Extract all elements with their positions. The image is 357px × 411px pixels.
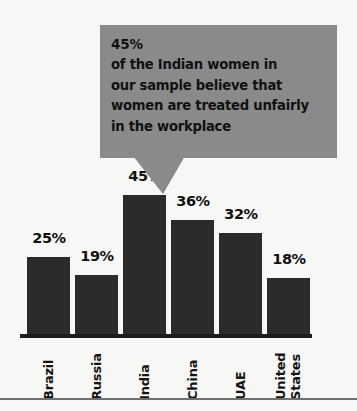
category-label-china: China	[171, 342, 214, 400]
bar-value-brazil: 25%	[20, 230, 78, 246]
category-label-line: India	[138, 342, 152, 400]
bar-value-united-states: 18%	[260, 251, 318, 267]
bar-india	[123, 195, 166, 334]
bottom-divider	[0, 398, 357, 400]
x-axis-baseline	[20, 334, 312, 338]
category-label-line: China	[186, 342, 200, 400]
bar-brazil	[27, 257, 70, 334]
category-label-india: India	[123, 342, 166, 400]
callout-annotation: 45% of the Indian women in our sample be…	[100, 25, 337, 158]
callout-line-3: women are treated unfairly	[111, 96, 327, 117]
callout-stat: 45%	[111, 36, 327, 53]
category-label-russia: Russia	[75, 342, 118, 400]
category-label-line: United	[274, 342, 288, 400]
category-label-line: Brazil	[42, 342, 56, 400]
category-label-united-states: United States	[267, 342, 310, 400]
callout-line-1: of the Indian women in	[111, 55, 327, 76]
callout-line-4: in the workplace	[111, 117, 327, 138]
callout-body: of the Indian women in our sample believ…	[111, 55, 327, 137]
callout-tail	[133, 156, 185, 194]
bar-chart-figure: 25% 19% 45% 36% 32% 18%	[0, 0, 357, 411]
bar-china	[171, 220, 214, 334]
bar-uae	[219, 233, 262, 334]
callout-line-2: our sample believe that	[111, 76, 327, 97]
x-axis-category-labels: Brazil Russia India China UAE United	[27, 342, 310, 402]
category-label-brazil: Brazil	[27, 342, 70, 400]
category-label-line: UAE	[234, 342, 248, 400]
bar-value-uae: 32%	[212, 206, 270, 222]
bar-russia	[75, 275, 118, 334]
bar-slot-brazil: 25%	[27, 0, 70, 334]
category-label-line: Russia	[90, 342, 104, 400]
category-label-uae: UAE	[219, 342, 262, 400]
category-label-line: States	[289, 342, 303, 400]
bar-united-states	[267, 278, 310, 334]
bar-value-russia: 19%	[68, 248, 126, 264]
